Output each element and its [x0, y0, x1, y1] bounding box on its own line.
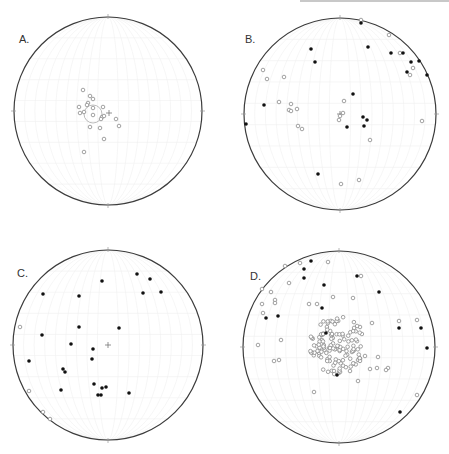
open-data-point: [354, 338, 358, 342]
open-data-point: [326, 370, 330, 374]
open-data-point: [309, 335, 313, 339]
filled-data-point: [159, 290, 163, 294]
open-data-point: [384, 368, 388, 372]
open-data-point: [368, 367, 372, 371]
open-data-point: [339, 182, 343, 186]
open-data-point: [256, 343, 260, 347]
open-data-point: [114, 117, 118, 121]
open-data-point: [341, 347, 345, 351]
open-data-point: [351, 296, 355, 300]
open-data-point: [352, 320, 356, 324]
open-data-point: [82, 150, 86, 154]
open-data-point: [319, 323, 323, 327]
filled-data-point: [90, 357, 94, 361]
open-data-point: [320, 350, 324, 354]
center-cross-icon: [105, 342, 111, 348]
open-data-point: [356, 348, 360, 352]
open-data-point: [312, 390, 316, 394]
filled-data-point: [320, 306, 324, 310]
open-data-point: [27, 389, 31, 393]
filled-data-point: [141, 291, 145, 295]
open-data-point: [91, 97, 95, 101]
open-data-point: [338, 339, 342, 343]
open-data-point: [88, 125, 92, 129]
open-data-point: [322, 320, 326, 324]
open-data-point: [261, 68, 265, 72]
filled-data-point: [135, 272, 139, 276]
open-data-point: [325, 351, 329, 355]
open-data-point: [341, 332, 345, 336]
open-data-point: [330, 332, 334, 336]
filled-data-point: [61, 367, 65, 371]
open-data-point: [18, 325, 22, 329]
filled-data-point: [100, 386, 104, 390]
open-data-point: [277, 358, 281, 362]
filled-data-point: [41, 292, 45, 296]
filled-data-point: [117, 326, 121, 330]
open-data-point: [333, 322, 337, 326]
open-data-point: [296, 124, 300, 128]
open-data-point: [273, 301, 277, 305]
filled-data-point: [425, 73, 429, 77]
filled-data-point: [398, 410, 402, 414]
filled-data-point: [127, 391, 131, 395]
open-data-point: [335, 317, 339, 321]
panel-label-d: D.: [250, 270, 261, 282]
stereonet-figure: A. B. C. D.: [0, 0, 449, 454]
open-data-point: [376, 355, 380, 359]
open-data-point: [375, 366, 379, 370]
filled-data-point: [99, 393, 103, 397]
open-data-point: [101, 105, 105, 109]
filled-data-point: [77, 294, 81, 298]
open-data-point: [363, 354, 367, 358]
open-data-point: [348, 357, 352, 361]
open-data-point: [279, 338, 283, 342]
open-data-point: [397, 319, 401, 323]
stereonet-panel-b: B.: [241, 15, 439, 213]
stereonet-panel-d: D.: [240, 248, 438, 446]
open-data-point: [317, 343, 321, 347]
open-data-point: [48, 417, 52, 421]
filled-data-point: [322, 283, 326, 287]
open-data-point: [282, 75, 286, 79]
open-data-point: [351, 329, 355, 333]
open-data-point: [370, 321, 374, 325]
open-data-point: [357, 353, 361, 357]
open-data-point: [298, 261, 302, 265]
filled-data-point: [355, 274, 359, 278]
filled-data-point: [77, 325, 81, 329]
filled-data-point: [359, 21, 363, 25]
open-data-point: [283, 264, 287, 268]
panel-label-c: C.: [17, 267, 28, 279]
filled-data-point: [92, 382, 96, 386]
open-data-point: [260, 302, 264, 306]
open-data-point: [415, 393, 419, 397]
open-data-point: [325, 359, 329, 363]
open-data-point: [346, 345, 350, 349]
open-data-point: [356, 379, 360, 383]
filled-data-point: [361, 115, 365, 119]
open-data-point: [352, 347, 356, 351]
filled-data-point: [377, 290, 381, 294]
open-data-point: [387, 33, 391, 37]
open-data-point: [77, 105, 81, 109]
primitive-circle: [14, 17, 202, 205]
open-data-point: [331, 347, 335, 351]
filled-data-point: [313, 60, 317, 64]
filled-data-point: [366, 45, 370, 49]
filled-data-point: [397, 326, 401, 330]
open-data-point: [91, 113, 95, 117]
filled-data-point: [302, 276, 306, 280]
filled-data-point: [316, 172, 320, 176]
open-data-point: [307, 302, 311, 306]
open-data-point: [99, 117, 103, 121]
open-data-point: [355, 324, 359, 328]
open-data-point: [81, 88, 85, 92]
filled-data-point: [91, 347, 95, 351]
filled-data-point: [264, 316, 268, 320]
open-data-point: [411, 66, 415, 70]
filled-data-point: [302, 267, 306, 271]
open-data-point: [359, 345, 363, 349]
open-data-point: [368, 138, 372, 142]
filled-data-point: [419, 326, 423, 330]
